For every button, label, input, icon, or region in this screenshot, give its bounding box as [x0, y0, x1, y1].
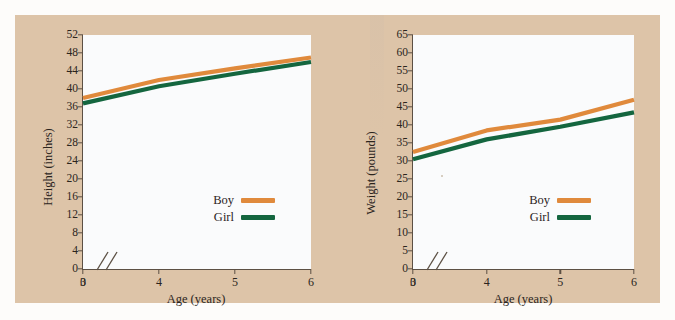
y-tick-mark	[78, 196, 83, 197]
y-tick-label: 44	[67, 65, 79, 77]
y-tick-mark	[78, 250, 83, 251]
x-axis-origin-label: 0	[410, 276, 416, 288]
x-tick-label: 5	[232, 276, 238, 288]
legend-label: Boy	[523, 194, 550, 207]
x-tick-mark	[310, 269, 311, 274]
plot-area-weight: 0510152025303540455055606534560	[412, 35, 634, 270]
legend-height: BoyGirl	[207, 193, 275, 227]
y-axis-title-height: Height (inches)	[41, 128, 56, 205]
legend-item-girl: Girl	[523, 210, 591, 225]
y-tick-label: 8	[72, 227, 78, 239]
y-tick-mark	[408, 214, 413, 215]
y-tick-label: 12	[67, 209, 79, 221]
legend-item-boy: Boy	[207, 193, 275, 208]
y-tick-mark	[408, 124, 413, 125]
line-series-weight	[413, 35, 634, 269]
y-tick-label: 20	[67, 173, 79, 185]
x-tick-mark	[234, 269, 235, 274]
line-series-height	[83, 35, 311, 269]
y-tick-mark	[408, 70, 413, 71]
x-tick-label: 5	[557, 276, 563, 288]
y-tick-mark	[78, 52, 83, 53]
y-tick-label: 40	[397, 119, 409, 131]
legend-item-boy: Boy	[523, 193, 591, 208]
y-tick-label: 24	[67, 155, 79, 167]
y-tick-mark	[408, 160, 413, 161]
y-tick-label: 48	[67, 47, 79, 59]
y-tick-mark	[408, 52, 413, 53]
legend-weight: BoyGirl	[523, 193, 591, 227]
x-tick-mark	[486, 269, 487, 274]
y-tick-mark	[78, 88, 83, 89]
plot-area-height: 048121620242832364044485234560	[82, 35, 311, 270]
y-tick-label: 55	[397, 65, 409, 77]
y-tick-label: 36	[67, 101, 79, 113]
y-tick-mark	[78, 142, 83, 143]
x-tick-label: 6	[308, 276, 314, 288]
y-tick-mark	[408, 142, 413, 143]
y-tick-mark	[78, 106, 83, 107]
y-tick-label: 20	[397, 191, 409, 203]
y-tick-label: 60	[397, 47, 409, 59]
y-axis-title-weight: Weight (pounds)	[364, 131, 379, 214]
series-line-girl	[83, 62, 311, 103]
legend-label: Boy	[207, 194, 234, 207]
y-tick-mark	[408, 88, 413, 89]
series-line-girl	[413, 112, 634, 159]
legend-swatch	[241, 198, 275, 204]
series-line-boy	[413, 100, 634, 152]
y-tick-label: 65	[397, 29, 409, 41]
y-tick-mark	[78, 178, 83, 179]
y-tick-label: 0	[72, 263, 78, 275]
y-tick-label: 45	[397, 101, 409, 113]
legend-swatch	[241, 215, 275, 221]
x-tick-mark	[158, 269, 159, 274]
x-tick-mark	[560, 269, 561, 274]
y-tick-mark	[408, 250, 413, 251]
paper-speck	[441, 175, 443, 177]
y-tick-mark	[408, 178, 413, 179]
legend-label: Girl	[523, 211, 550, 224]
y-tick-label: 35	[397, 137, 409, 149]
y-tick-label: 16	[67, 191, 79, 203]
y-tick-label: 15	[397, 209, 409, 221]
y-tick-label: 30	[397, 155, 409, 167]
y-tick-mark	[78, 214, 83, 215]
y-tick-label: 0	[402, 263, 408, 275]
chart-height: 048121620242832364044485234560 Height (i…	[15, 15, 337, 303]
y-tick-label: 40	[67, 83, 79, 95]
x-tick-label: 4	[484, 276, 490, 288]
figure-panel: 048121620242832364044485234560 Height (i…	[15, 15, 660, 303]
x-tick-label: 4	[156, 276, 162, 288]
series-line-boy	[83, 58, 311, 99]
y-tick-mark	[408, 232, 413, 233]
y-tick-mark	[78, 160, 83, 161]
y-tick-mark	[408, 34, 413, 35]
x-tick-mark	[633, 269, 634, 274]
y-tick-mark	[408, 106, 413, 107]
y-tick-mark	[408, 196, 413, 197]
x-tick-mark	[412, 269, 413, 274]
x-tick-label: 6	[631, 276, 637, 288]
y-tick-label: 50	[397, 83, 409, 95]
y-tick-mark	[78, 70, 83, 71]
y-tick-label: 10	[397, 227, 409, 239]
y-tick-label: 4	[72, 245, 78, 257]
y-tick-mark	[78, 34, 83, 35]
x-axis-origin-label: 0	[80, 276, 86, 288]
y-tick-label: 5	[402, 245, 408, 257]
legend-swatch	[557, 215, 591, 221]
legend-item-girl: Girl	[207, 210, 275, 225]
y-tick-label: 52	[67, 29, 79, 41]
legend-swatch	[557, 198, 591, 204]
y-tick-mark	[78, 124, 83, 125]
chart-weight: 0510152025303540455055606534560 Weight (…	[338, 15, 660, 303]
y-tick-mark	[78, 232, 83, 233]
legend-label: Girl	[207, 211, 234, 224]
y-tick-label: 28	[67, 137, 79, 149]
x-axis-title-weight: Age (years)	[494, 292, 553, 307]
y-tick-label: 25	[397, 173, 409, 185]
y-tick-label: 32	[67, 119, 79, 131]
x-axis-title-height: Age (years)	[167, 292, 226, 307]
x-tick-mark	[82, 269, 83, 274]
